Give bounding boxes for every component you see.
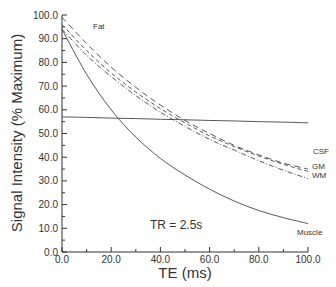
curve-csf	[62, 117, 308, 123]
label-fat: Fat	[93, 22, 105, 31]
x-axis-title: TE (ms)	[158, 264, 211, 281]
y-tick-label: 70.0	[39, 81, 59, 92]
x-tick-label: 100.0	[295, 254, 320, 265]
curve-wm	[62, 29, 308, 178]
label-csf: CSF	[313, 147, 329, 156]
y-tick-label: 30.0	[39, 175, 59, 186]
y-tick-label: 40.0	[39, 152, 59, 163]
y-tick-label: 50.0	[39, 128, 59, 139]
label-muscle: Muscle	[297, 228, 323, 237]
y-tick-label: 10.0	[39, 223, 59, 234]
axes	[62, 15, 308, 252]
y-tick-label: 100.0	[33, 10, 58, 21]
signal-intensity-chart: 0.020.040.060.080.0100.00.010.020.030.04…	[0, 0, 336, 287]
x-tick-label: 80.0	[249, 254, 269, 265]
curves	[62, 17, 308, 223]
y-tick-label: 80.0	[39, 57, 59, 68]
tr-annotation: TR = 2.5s	[150, 218, 202, 232]
y-tick-label: 60.0	[39, 104, 59, 115]
y-tick-label: 20.0	[39, 199, 59, 210]
curve-gm	[62, 24, 308, 171]
chart-svg: 0.020.040.060.080.0100.00.010.020.030.04…	[0, 0, 336, 287]
y-axis-title: Signal Intensity (% Maximum)	[8, 34, 25, 232]
y-tick-label: 90.0	[39, 33, 59, 44]
y-tick-label: 0.0	[44, 247, 58, 258]
label-wm: WM	[312, 171, 327, 180]
label-gm: GM	[312, 162, 325, 171]
x-tick-label: 20.0	[101, 254, 121, 265]
